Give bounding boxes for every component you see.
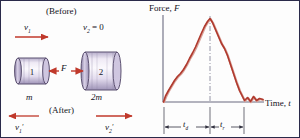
force-time-chart-panel: Force, F Time, t td tr: [151, 1, 300, 138]
collision-diagram-panel: (Before) v1 v2 = 0 m 2m F (After) v1′ v2…: [1, 1, 151, 138]
collision-graphics: 1 2: [1, 1, 151, 138]
block-2-number: 2: [99, 67, 104, 77]
figure-container: (Before) v1 v2 = 0 m 2m F (After) v1′ v2…: [0, 0, 300, 138]
chart-graphics: [151, 1, 300, 138]
force-curve-shadow: [164, 19, 263, 102]
block-1: 1: [15, 58, 50, 84]
force-curve: [164, 19, 264, 103]
block-2: 2: [81, 52, 121, 90]
block-1-number: 1: [30, 67, 35, 77]
